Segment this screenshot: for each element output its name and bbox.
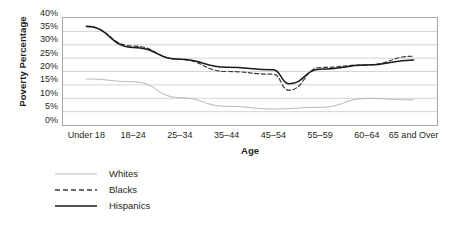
x-axis-tick-label: 18–24 <box>121 130 146 141</box>
x-axis-tick-label: 25–34 <box>167 130 192 141</box>
legend-item-blacks[interactable]: Blacks <box>55 182 255 198</box>
plot-lines <box>63 18 437 125</box>
y-axis-tick-label: 30% <box>40 35 58 44</box>
x-axis-tick-labels: Under 1818–2425–3435–4445–5455–5960–6465… <box>62 130 438 144</box>
x-axis-tick-label: Under 18 <box>68 130 105 141</box>
y-axis-tick-label: 25% <box>40 49 58 58</box>
y-axis-tick-label: 10% <box>40 89 58 98</box>
x-axis-tick-label: 60–64 <box>354 130 379 141</box>
legend-label: Whites <box>109 169 138 179</box>
y-axis-tick-label: 0% <box>45 116 58 125</box>
legend-swatch-whites-icon <box>55 169 97 179</box>
x-axis-tick-label: 35–44 <box>214 130 239 141</box>
legend-swatch-hispanics-icon <box>55 201 97 211</box>
legend-item-hispanics[interactable]: Hispanics <box>55 198 255 214</box>
plot-area <box>62 17 438 126</box>
y-axis-tick-label: 5% <box>45 102 58 111</box>
x-axis-title: Age <box>62 145 438 156</box>
y-axis-tick-label: 40% <box>40 9 58 18</box>
legend-swatch-blacks-icon <box>55 185 97 195</box>
y-axis-tick-label: 20% <box>40 62 58 71</box>
y-axis-tick-label: 35% <box>40 22 58 31</box>
legend-item-whites[interactable]: Whites <box>55 166 255 182</box>
series-line-whites <box>86 79 413 109</box>
chart-legend: WhitesBlacksHispanics <box>55 166 255 214</box>
poverty-percentage-by-age-chart: Poverty Percentage 40%35%30%25%20%15%10%… <box>0 0 458 225</box>
series-line-hispanics <box>86 26 413 84</box>
x-axis-tick-label: 55–59 <box>308 130 333 141</box>
legend-label: Hispanics <box>109 201 150 211</box>
x-axis-tick-label: 45–54 <box>261 130 286 141</box>
y-axis-tick-labels: 40%35%30%25%20%15%10%5%0% <box>22 12 58 126</box>
x-axis-tick-label: 65 and Over <box>389 130 439 141</box>
legend-label: Blacks <box>109 185 137 195</box>
y-axis-tick-label: 15% <box>40 75 58 84</box>
